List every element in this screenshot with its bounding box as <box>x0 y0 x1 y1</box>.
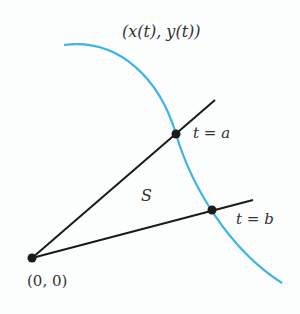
region-label: S <box>141 186 152 205</box>
point-a-label: t = a <box>193 124 230 142</box>
point-b-label: t = b <box>236 210 274 228</box>
point-a <box>172 130 181 139</box>
diagram-graphic <box>0 0 300 314</box>
curve-label: (x(t), y(t)) <box>122 22 201 41</box>
point-b <box>208 206 217 215</box>
origin-point <box>28 254 37 263</box>
origin-label: (0, 0) <box>27 272 67 290</box>
parametric-curve <box>64 44 282 283</box>
polar-area-diagram: (x(t), y(t)) S t = a t = b (0, 0) <box>0 0 300 314</box>
